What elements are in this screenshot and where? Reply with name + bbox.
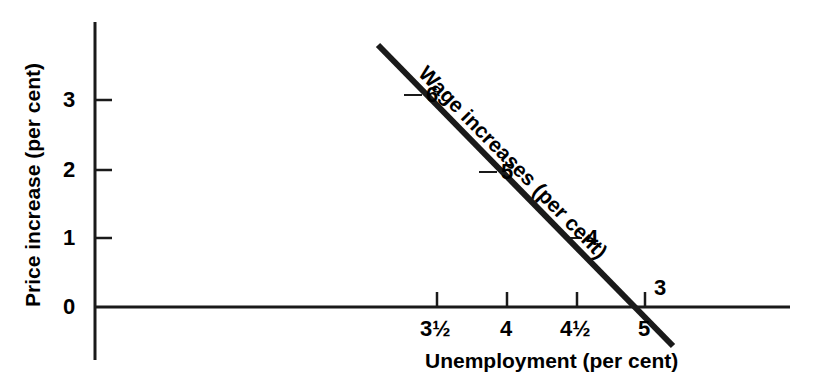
wage-increase-curve	[378, 45, 673, 346]
phillips-curve-figure: 3 2 1 0 3½ 4 4½ 5 6 5 4 3 Wage increases…	[0, 0, 814, 388]
y-tick-label-0: 0	[63, 296, 75, 318]
x-tick-label-5: 5	[638, 318, 650, 340]
x-tick-label-3half: 3½	[420, 318, 451, 340]
y-tick-label-3: 3	[63, 89, 75, 111]
y-tick-label-1: 1	[63, 227, 75, 249]
x-tick-label-4: 4	[500, 318, 512, 340]
y-axis-title-wrap: Price increase (per cent)	[12, 60, 52, 310]
x-tick-label-4half: 4½	[560, 318, 591, 340]
y-axis-title: Price increase (per cent)	[22, 63, 43, 307]
y-tick-label-2: 2	[63, 159, 75, 181]
curve-point-label-3: 3	[654, 277, 666, 299]
chart-canvas	[0, 0, 814, 388]
x-axis-title: Unemployment (per cent)	[425, 350, 678, 371]
